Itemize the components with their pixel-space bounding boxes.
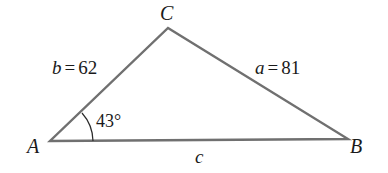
side-c-label: c <box>195 146 204 167</box>
angle-a-arc <box>82 113 93 141</box>
vertex-label-a: A <box>25 135 40 157</box>
side-b-label: b=62 <box>52 57 97 78</box>
vertex-label-c: C <box>160 2 174 24</box>
side-a-label: a=81 <box>255 57 300 78</box>
triangle-abc <box>50 28 348 141</box>
vertex-label-b: B <box>350 135 362 157</box>
angle-a-label: 43° <box>96 111 121 131</box>
triangle-diagram: C A B b=62 a=81 c 43° <box>0 0 388 173</box>
